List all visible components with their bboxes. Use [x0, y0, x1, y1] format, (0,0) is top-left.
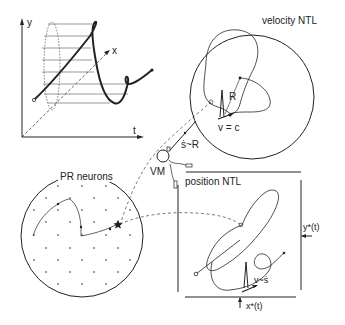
connection-node — [184, 132, 186, 134]
y-axis-arrow-icon — [20, 18, 24, 25]
vm-connection: ṡ~R VM — [120, 102, 211, 225]
pr-neuron-grid — [33, 185, 131, 285]
x-input-label: x*(t) — [246, 301, 263, 311]
position-start-point — [194, 272, 198, 276]
y-axis-label: y — [27, 17, 32, 28]
vm-terminal-top — [186, 164, 192, 167]
relation-label: ṡ~R — [181, 139, 199, 150]
velocity-ntl-title: velocity NTL — [262, 15, 317, 26]
trajectory-end-point — [150, 68, 153, 71]
y-input-arrow-head-icon — [301, 234, 306, 238]
velocity-label: v = c — [218, 122, 239, 133]
trajectory-plot: y x t — [20, 17, 154, 139]
pr-neurons-panel: PR neurons — [21, 170, 240, 297]
x-axis-label: x — [112, 45, 117, 56]
dashed-link-position — [120, 213, 240, 224]
position-spike — [244, 262, 248, 288]
radius-label: R — [229, 91, 236, 102]
t-axis-label: t — [133, 125, 136, 136]
velocity-spike — [220, 90, 224, 117]
position-ntl-panel: position NTL y*(t) x*(t) v~ṡ — [178, 172, 320, 311]
position-velocity-label: v~ṡ — [254, 275, 269, 285]
y-input-label: y*(t) — [303, 222, 320, 232]
dashed-link-velocity — [120, 102, 211, 225]
vm-synapse — [167, 147, 170, 151]
position-ntl-title: position NTL — [185, 176, 242, 187]
t-axis-arrow-icon — [137, 135, 144, 139]
active-neuron-star-icon — [114, 220, 123, 229]
vm-terminal-side — [174, 181, 177, 188]
vm-neuron — [157, 150, 169, 162]
velocity-ntl-panel: velocity NTL R v = c — [190, 15, 317, 159]
velocity-arrow-head-icon — [228, 113, 234, 117]
projection-hatching — [42, 24, 128, 103]
position-end-point — [283, 252, 286, 255]
position-loop-outer — [207, 190, 279, 271]
pr-neuron-path — [33, 199, 118, 236]
vm-label: VM — [150, 166, 165, 177]
vm-wire-top — [169, 160, 188, 166]
neural-trajectory-diagram: y x t velocity NTL R v = c — [0, 0, 345, 325]
velocity-ntl-circle — [190, 35, 314, 159]
pr-neurons-title: PR neurons — [60, 171, 113, 182]
x-axis-arrow-icon — [104, 50, 110, 55]
x-input-arrow-head-icon — [238, 297, 242, 302]
x-axis — [22, 52, 108, 137]
vm-wire-side — [170, 164, 176, 183]
projection-cylinder — [44, 22, 60, 110]
trajectory-start-point — [32, 98, 35, 101]
trajectory-curve — [34, 22, 152, 104]
